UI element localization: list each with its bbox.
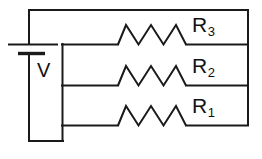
resistor-r1-zigzag [118,106,186,126]
resistor-r1-label-name: R [192,94,207,117]
resistor-r1-label: R1 [192,95,214,116]
voltage-source-label: V [37,60,50,80]
resistor-r2-label-name: R [192,54,207,77]
resistor-r2-zigzag [118,66,186,86]
resistor-r3-zigzag [118,25,186,45]
resistor-r2-label: R2 [192,55,214,76]
resistor-r1-label-subscript: 1 [208,105,215,120]
resistor-r3-label: R3 [192,14,214,35]
resistor-r3-label-name: R [192,13,207,36]
resistor-r2-label-subscript: 2 [208,65,215,80]
circuit-diagram-canvas: V R3 R2 R1 [0,0,262,159]
resistor-r3-label-subscript: 3 [208,24,215,39]
